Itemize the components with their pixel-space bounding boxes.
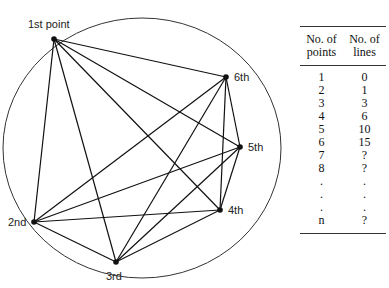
table-row: 33 [300, 97, 386, 110]
bottom-rule [300, 233, 386, 234]
table-row: 46 [300, 110, 386, 123]
chord-line [34, 39, 54, 222]
vertex-dot [217, 207, 223, 213]
vertex-dot [51, 36, 57, 42]
vertex-dot [31, 219, 37, 225]
table-row: 7? [300, 149, 386, 162]
header-points-line1: No. of [306, 32, 337, 46]
header-lines-line2: lines [353, 45, 376, 59]
points-lines-table: No. of points No. of lines 1021334651061… [300, 26, 386, 234]
complete-graph-diagram: 1st point2nd3rd4th5th6th [0, 0, 300, 288]
header-lines: No. of lines [343, 33, 386, 59]
vertex-dot [223, 74, 229, 80]
table-row: 615 [300, 136, 386, 149]
table-row: 10 [300, 71, 386, 84]
vertex-label: 1st point [28, 18, 70, 30]
chord-line [220, 77, 226, 210]
chord-line [226, 77, 240, 147]
table-row: 8? [300, 162, 386, 175]
vertex-dot [237, 144, 243, 150]
table-body: 102133465106157?8?......n? [300, 66, 386, 233]
table-row: .. [300, 188, 386, 201]
chord-line [34, 77, 226, 222]
vertex-label: 4th [228, 204, 243, 216]
vertex-label: 5th [248, 141, 263, 153]
table-row: 510 [300, 123, 386, 136]
chord-line [54, 39, 240, 147]
header-lines-line1: No. of [349, 32, 380, 46]
vertex-label: 3rd [106, 270, 122, 282]
table-row: .. [300, 201, 386, 214]
header-points: No. of points [300, 33, 343, 59]
vertex-label: 6th [234, 71, 249, 83]
chord-line [54, 39, 226, 77]
cell-lines: ? [343, 214, 386, 227]
cell-points: n [300, 214, 343, 227]
chord-lines [34, 39, 240, 262]
table-header: No. of points No. of lines [300, 27, 386, 65]
vertex-label: 2nd [8, 216, 26, 228]
table-row: n? [300, 214, 386, 227]
chord-line [54, 39, 116, 262]
vertex-dot [113, 259, 119, 265]
header-points-line2: points [307, 45, 336, 59]
table-row: .. [300, 175, 386, 188]
table-row: 21 [300, 84, 386, 97]
